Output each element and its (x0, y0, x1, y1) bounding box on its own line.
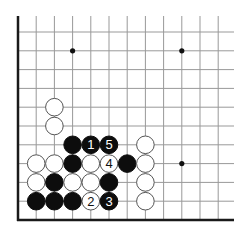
white-stone (82, 155, 100, 173)
black-stone-icon (118, 155, 136, 173)
move-number-label: 4 (105, 156, 112, 171)
white-stone (137, 174, 155, 192)
white-stone-icon (82, 155, 100, 173)
black-stone-move-1: 1 (82, 136, 100, 154)
white-stone-move-4: 4 (100, 155, 118, 173)
black-stone (46, 174, 64, 192)
white-stone-move-2: 2 (82, 192, 100, 210)
star-point-icon (179, 48, 184, 53)
black-stone-icon (64, 192, 82, 210)
white-stone-icon (46, 98, 64, 116)
black-stone (118, 155, 136, 173)
star-point-icon (70, 48, 75, 53)
black-stone-move-5: 5 (100, 136, 118, 154)
move-number-label: 3 (105, 194, 112, 209)
white-stone-icon (137, 192, 155, 210)
black-stone (64, 155, 82, 173)
black-stone (46, 192, 64, 210)
white-stone (27, 155, 45, 173)
white-stone (137, 192, 155, 210)
move-number-label: 2 (87, 194, 94, 209)
move-number-label: 5 (105, 137, 112, 152)
white-stone (46, 98, 64, 116)
white-stone (82, 174, 100, 192)
black-stone-icon (46, 174, 64, 192)
white-stone-icon (137, 155, 155, 173)
white-stone (46, 155, 64, 173)
black-stone-move-3: 3 (100, 192, 118, 210)
black-stone-icon (64, 155, 82, 173)
black-stone-icon (27, 192, 45, 210)
black-stone-icon (46, 192, 64, 210)
star-point-icon (179, 161, 184, 166)
black-stone (64, 192, 82, 210)
white-stone-icon (64, 174, 82, 192)
white-stone-icon (137, 136, 155, 154)
white-stone (64, 174, 82, 192)
white-stone (137, 155, 155, 173)
white-stone-icon (82, 174, 100, 192)
move-number-label: 1 (87, 137, 94, 152)
black-stone (64, 136, 82, 154)
white-stone-icon (46, 117, 64, 135)
white-stone-icon (46, 155, 64, 173)
white-stone-icon (137, 174, 155, 192)
white-stone (137, 136, 155, 154)
white-stone-icon (27, 174, 45, 192)
black-stone (100, 174, 118, 192)
black-stone-icon (64, 136, 82, 154)
white-stone (27, 174, 45, 192)
go-board: 15423 (0, 0, 252, 232)
black-stone-icon (100, 174, 118, 192)
black-stone (27, 192, 45, 210)
white-stone (46, 117, 64, 135)
white-stone-icon (27, 155, 45, 173)
